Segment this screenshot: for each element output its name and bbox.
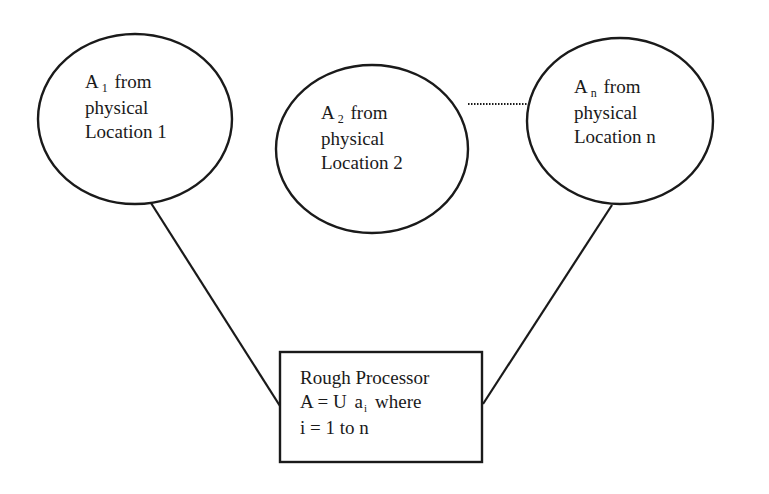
node-label-line-2: physical bbox=[321, 127, 403, 151]
edge-location-n-to-processor bbox=[483, 205, 612, 404]
text: from bbox=[599, 76, 641, 97]
text: from bbox=[346, 102, 388, 123]
subscript: 1 bbox=[102, 81, 108, 95]
node-label-line-3: Location n bbox=[574, 125, 656, 149]
formula-symbol: a bbox=[355, 391, 363, 412]
node-label-line-2: physical bbox=[574, 101, 656, 125]
symbol: A bbox=[321, 102, 335, 123]
node-label-line-3: Location 1 bbox=[85, 120, 167, 144]
subscript: 2 bbox=[338, 112, 344, 126]
node-label-location-n: An from physical Location n bbox=[574, 75, 656, 149]
processor-label: Rough Processor A = Uaiwhere i = 1 to n bbox=[300, 366, 429, 440]
node-label-location-2: A2 from physical Location 2 bbox=[321, 101, 403, 175]
symbol: A bbox=[85, 71, 99, 92]
node-label-line-2: physical bbox=[85, 96, 167, 120]
processor-label-line-3: i = 1 to n bbox=[300, 416, 429, 440]
text: from bbox=[110, 71, 152, 92]
node-label-line-1: An from bbox=[574, 75, 656, 101]
processor-label-line-2: A = Uaiwhere bbox=[300, 390, 429, 416]
edge-location-1-to-processor bbox=[151, 203, 280, 406]
processor-label-line-1: Rough Processor bbox=[300, 366, 429, 390]
subscript: n bbox=[591, 86, 597, 100]
node-label-line-1: A2 from bbox=[321, 101, 403, 127]
node-label-line-1: A1 from bbox=[85, 70, 167, 96]
formula-prefix: A = U bbox=[300, 391, 347, 412]
node-label-line-3: Location 2 bbox=[321, 151, 403, 175]
node-label-location-1: A1 from physical Location 1 bbox=[85, 70, 167, 144]
formula-suffix: where bbox=[375, 391, 421, 412]
symbol: A bbox=[574, 76, 588, 97]
formula-subscript: i bbox=[364, 402, 367, 414]
